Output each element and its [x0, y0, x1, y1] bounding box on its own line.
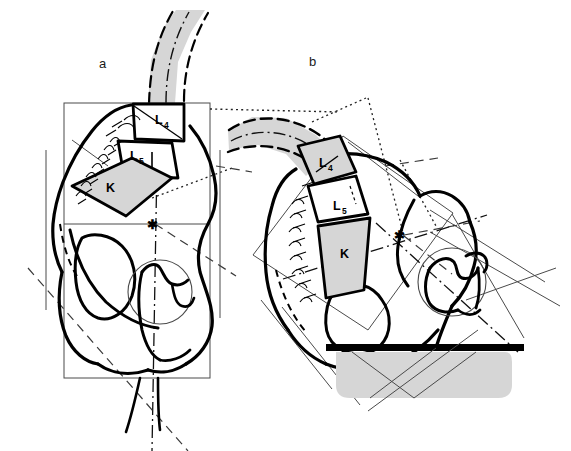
- panel-a-label-L4-subscript: 4: [164, 120, 169, 130]
- panel-b-centre-asterisk: ✱: [394, 229, 405, 243]
- panel-b-label-K: K: [340, 247, 349, 261]
- panel-a-label-L5-subscript: 5: [139, 156, 144, 166]
- panel-b-support-bar: [326, 344, 524, 351]
- panel-b-label-L4-letter: L: [319, 156, 327, 170]
- panel-a-centre-asterisk: ✱: [147, 218, 158, 232]
- panel-a-label-L5-letter: L: [130, 149, 138, 163]
- panel-a-label-L4-letter: L: [155, 113, 163, 127]
- panel-a-label-K: K: [106, 181, 115, 195]
- panel-b-label: b: [309, 54, 316, 69]
- figure-root: ✱ a L 4 L 5 K: [0, 0, 571, 451]
- panel-b-label-L5-subscript: 5: [342, 206, 347, 216]
- panel-b-label-L4-subscript: 4: [328, 163, 333, 173]
- anatomical-diagram: ✱ a L 4 L 5 K: [0, 0, 571, 451]
- panel-b-label-L5-letter: L: [333, 199, 341, 213]
- panel-a-label: a: [99, 56, 107, 71]
